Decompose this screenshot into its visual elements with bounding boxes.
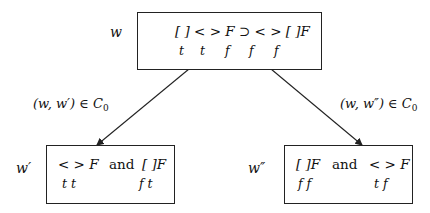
world-label-w-prime: w′ [16, 160, 31, 176]
formula-b-w-double-prime: < > F [369, 156, 410, 172]
edge-label-left-text: (w, w′) ∈ C [33, 96, 103, 111]
values-b-w-prime: f t [139, 176, 153, 191]
values-a-w-double-prime: f f [298, 176, 311, 191]
connector-w-prime: and [109, 156, 134, 172]
value-4: f [249, 43, 254, 58]
value-2: t [200, 43, 205, 58]
edge-w-to-w-prime [97, 69, 189, 145]
world-label-w-double-prime: w″ [248, 160, 265, 176]
node-w-double-prime: [ ]F and < > F f f t f [284, 145, 413, 204]
formula-b-w-prime: [ ]F [142, 156, 166, 172]
edge-label-right-text: (w, w″) ∈ C [340, 96, 412, 111]
formula-a-w-prime: < > F [58, 156, 99, 172]
value-5: f [274, 43, 279, 58]
edge-label-right: (w, w″) ∈ C0 [340, 96, 418, 113]
edge-label-left-sub: 0 [103, 103, 109, 113]
formula-w: [ ] < > F ⊃ < > [ ]F [175, 23, 310, 39]
value-1: t [179, 43, 184, 58]
values-a-w-prime: t t [62, 176, 76, 191]
edge-label-left: (w, w′) ∈ C0 [33, 96, 109, 113]
edge-label-right-sub: 0 [412, 103, 418, 113]
connector-w-double-prime: and [332, 156, 357, 172]
world-label-w: w [110, 24, 122, 40]
formula-a-w-double-prime: [ ]F [296, 156, 320, 172]
node-w: [ ] < > F ⊃ < > [ ]F t t f f f [137, 12, 322, 70]
node-w-prime: < > F and [ ]F t t f t [46, 145, 175, 204]
value-3: f [225, 43, 230, 58]
values-b-w-double-prime: t f [374, 176, 388, 191]
